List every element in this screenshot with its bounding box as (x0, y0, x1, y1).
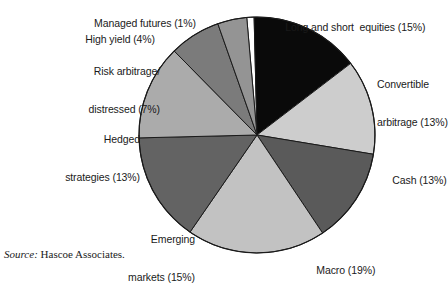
pie-label-long-and-short-equities-text: Long and short equities (15%) (285, 21, 425, 33)
pie-label-convertible-arbitrage-line2: arbitrage (13%) (377, 116, 448, 129)
pie-label-convertible-arbitrage: Convertible arbitrage (13%) (377, 53, 448, 153)
pie-label-cash-text: Cash (13%) (392, 174, 446, 186)
pie-label-cash: Cash (13%) (381, 161, 447, 199)
pie-label-hedged-strategies-line2: strategies (13%) (65, 171, 140, 184)
pie-label-macro-text: Macro (19%) (316, 264, 375, 276)
pie-label-emerging-markets: Emerging markets (15%) (128, 208, 195, 287)
source-note-prefix: Source: (4, 248, 38, 260)
pie-label-convertible-arbitrage-line1: Convertible (377, 78, 448, 91)
pie-label-managed-futures-text: Managed futures (1%) (94, 17, 196, 29)
pie-label-emerging-markets-line1: Emerging (128, 233, 195, 246)
pie-label-emerging-markets-line2: markets (15%) (128, 271, 195, 284)
source-note-text: Hascoe Associates. (41, 248, 125, 260)
pie-label-risk-arbitrage-distressed-line2: distressed (7%) (89, 103, 160, 116)
pie-label-managed-futures: Managed futures (1%) (83, 4, 196, 42)
pie-label-long-and-short-equities: Long and short equities (15%) (274, 8, 425, 46)
pie-label-risk-arbitrage-distressed-line1: Risk arbitrage/ (89, 65, 160, 78)
source-note: Source: Hascoe Associates. (4, 248, 125, 260)
pie-label-macro: Macro (19%) (305, 251, 375, 287)
